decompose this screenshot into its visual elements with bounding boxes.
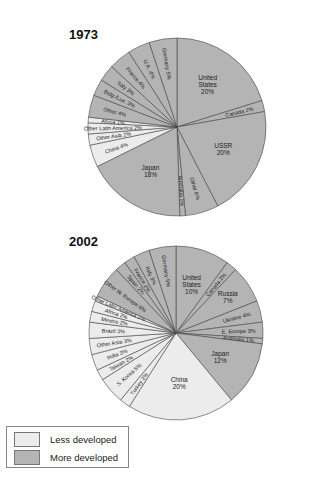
legend-swatch-less [14,432,40,447]
legend-item-more-developed: More developed [14,450,118,465]
slice-label: Other Latin America 2% [84,125,142,132]
slice-label: China20% [171,376,188,390]
legend: Less developed More developed [6,426,129,468]
legend-item-less-developed: Less developed [14,432,117,447]
slice-label: E. Europe 3% [222,327,256,334]
legend-swatch-more [14,450,40,465]
legend-label-more: More developed [50,452,118,463]
pie-charts: UnitedStates20%Canada 2%USSR20%Other 6%A… [0,0,320,496]
legend-label-less: Less developed [50,434,117,445]
slice-label: Brazil 3% [102,328,126,335]
